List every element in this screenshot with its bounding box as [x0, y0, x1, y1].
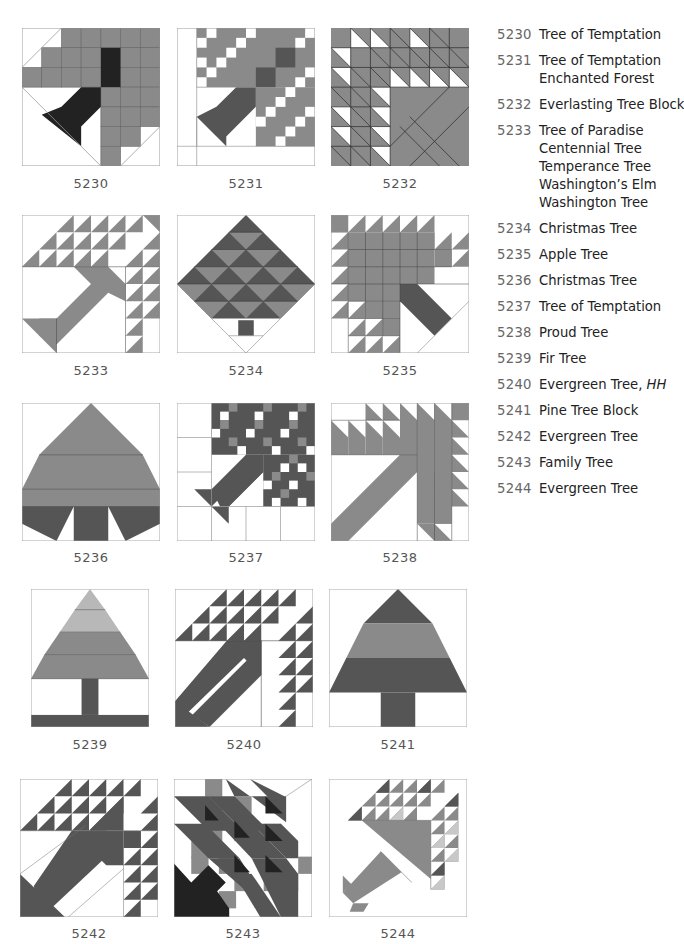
- block-name: Temperance Tree: [539, 158, 684, 176]
- index-entry-5233: 5233 Tree of Paradise Centennial Tree Te…: [497, 122, 684, 212]
- block-number: 5231: [497, 52, 539, 88]
- quilt-block-5235: [331, 215, 469, 353]
- block-name: Christmas Tree: [539, 220, 684, 238]
- block-name-text: Evergreen Tree,: [539, 377, 642, 392]
- block-label: 5234: [177, 363, 315, 378]
- quilt-block-5241: [329, 589, 467, 727]
- index-entry-5234: 5234 Christmas Tree: [497, 220, 684, 238]
- block-name: Tree of Paradise: [539, 122, 684, 140]
- block-name: Washington Tree: [539, 194, 684, 212]
- block-name: Centennial Tree: [539, 140, 684, 158]
- block-5244-diagram: [329, 779, 467, 917]
- block-number: 5243: [497, 454, 539, 472]
- block-label: 5236: [22, 550, 160, 565]
- block-name: Tree of Temptation: [539, 52, 684, 70]
- block-label: 5244: [329, 926, 467, 941]
- block-name: Evergreen Tree: [539, 428, 684, 446]
- index-entry-5244: 5244 Evergreen Tree: [497, 480, 684, 498]
- block-label: 5238: [331, 550, 469, 565]
- block-number: 5240: [497, 376, 539, 394]
- block-5241-diagram: [329, 589, 467, 727]
- block-name: Enchanted Forest: [539, 70, 684, 88]
- block-5232-diagram: [331, 28, 469, 166]
- block-number: 5242: [497, 428, 539, 446]
- quilt-block-5244: [329, 779, 467, 917]
- block-name: Apple Tree: [539, 246, 684, 264]
- block-label: 5242: [20, 926, 158, 941]
- block-name: Everlasting Tree Block: [539, 96, 684, 114]
- quilt-block-5231: [177, 28, 315, 166]
- block-label: 5243: [174, 926, 312, 941]
- block-number: 5238: [497, 324, 539, 342]
- block-label: 5241: [329, 737, 467, 752]
- block-5236-diagram: [22, 403, 160, 541]
- quilt-block-5239: [31, 589, 149, 727]
- block-number: 5234: [497, 220, 539, 238]
- block-label: 5239: [21, 737, 159, 752]
- block-name: Pine Tree Block: [539, 402, 684, 420]
- block-5233-diagram: [22, 215, 160, 353]
- block-5240-diagram: [175, 589, 313, 727]
- quilt-block-5230: [22, 28, 160, 166]
- block-name: Tree of Temptation: [539, 298, 684, 316]
- block-number: 5237: [497, 298, 539, 316]
- block-number: 5230: [497, 26, 539, 44]
- block-number: 5232: [497, 96, 539, 114]
- index-entry-5232: 5232 Everlasting Tree Block: [497, 96, 684, 114]
- block-name: Christmas Tree: [539, 272, 684, 290]
- index-entry-5241: 5241 Pine Tree Block: [497, 402, 684, 420]
- block-5234-diagram: [177, 215, 315, 353]
- index-entry-5231: 5231 Tree of Temptation Enchanted Forest: [497, 52, 684, 88]
- block-name: Proud Tree: [539, 324, 684, 342]
- block-number: 5233: [497, 122, 539, 212]
- quilt-block-5238: [331, 403, 469, 541]
- block-name: Fir Tree: [539, 350, 684, 368]
- quilt-block-5237: [177, 403, 315, 541]
- block-label: 5240: [175, 737, 313, 752]
- block-label: 5232: [331, 176, 469, 191]
- block-name: Family Tree: [539, 454, 684, 472]
- block-name: Tree of Temptation: [539, 26, 684, 44]
- block-5235-diagram: [331, 215, 469, 353]
- block-name-index: 5230 Tree of Temptation 5231 Tree of Tem…: [497, 26, 684, 506]
- block-5230-diagram: [22, 28, 160, 166]
- quilt-block-5240: [175, 589, 313, 727]
- index-entry-5242: 5242 Evergreen Tree: [497, 428, 684, 446]
- block-5237-diagram: [177, 403, 315, 541]
- block-label: 5230: [22, 176, 160, 191]
- block-5239-diagram: [31, 589, 149, 727]
- block-number: 5235: [497, 246, 539, 264]
- block-label: 5233: [22, 363, 160, 378]
- block-label: 5235: [331, 363, 469, 378]
- block-number: 5236: [497, 272, 539, 290]
- quilt-block-5232: [331, 28, 469, 166]
- index-entry-5236: 5236 Christmas Tree: [497, 272, 684, 290]
- block-5238-diagram: [331, 403, 469, 541]
- index-entry-5237: 5237 Tree of Temptation: [497, 298, 684, 316]
- block-name: Washington’s Elm: [539, 176, 684, 194]
- block-label: 5231: [177, 176, 315, 191]
- block-name: Evergreen Tree, HH: [539, 376, 684, 394]
- block-5242-diagram: [20, 779, 158, 917]
- quilt-block-5243: [174, 779, 312, 917]
- block-name: Evergreen Tree: [539, 480, 684, 498]
- quilt-block-5234: [177, 215, 315, 353]
- source-abbrev: HH: [647, 377, 667, 392]
- quilt-block-5233: [22, 215, 160, 353]
- index-entry-5239: 5239 Fir Tree: [497, 350, 684, 368]
- index-entry-5243: 5243 Family Tree: [497, 454, 684, 472]
- block-label: 5237: [177, 550, 315, 565]
- index-entry-5240: 5240 Evergreen Tree, HH: [497, 376, 684, 394]
- block-5243-diagram: [174, 779, 312, 917]
- quilt-block-5242: [20, 779, 158, 917]
- index-entry-5230: 5230 Tree of Temptation: [497, 26, 684, 44]
- block-5231-diagram: [177, 28, 315, 166]
- block-number: 5241: [497, 402, 539, 420]
- block-number: 5244: [497, 480, 539, 498]
- index-entry-5235: 5235 Apple Tree: [497, 246, 684, 264]
- quilt-block-5236: [22, 403, 160, 541]
- index-entry-5238: 5238 Proud Tree: [497, 324, 684, 342]
- block-number: 5239: [497, 350, 539, 368]
